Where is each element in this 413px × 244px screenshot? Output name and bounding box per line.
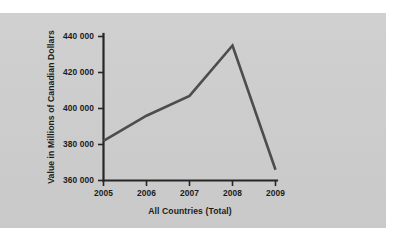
y-axis-title: Value in Millions of Canadian Dollars [46,30,56,184]
plot-area: 360 000 380 000 400 000 420 000 440 000 … [0,0,413,244]
x-tick-label-3: 2008 [223,188,242,198]
x-tick-label-1: 2006 [137,188,156,198]
y-tick-label-2: 400 000 [63,103,94,113]
line-chart-svg: 360 000 380 000 400 000 420 000 440 000 … [0,0,413,244]
y-tick-label-1: 380 000 [63,139,94,149]
chart-figure: 360 000 380 000 400 000 420 000 440 000 … [0,0,413,244]
x-tick-label-2: 2007 [180,188,199,198]
y-tick-label-0: 360 000 [63,175,94,185]
x-tick-label-0: 2005 [94,188,113,198]
data-series-line [104,46,276,170]
x-axis-title: All Countries (Total) [148,206,232,216]
y-tick-label-3: 420 000 [63,67,94,77]
x-tick-label-4: 2009 [266,188,285,198]
y-tick-label-4: 440 000 [63,31,94,41]
